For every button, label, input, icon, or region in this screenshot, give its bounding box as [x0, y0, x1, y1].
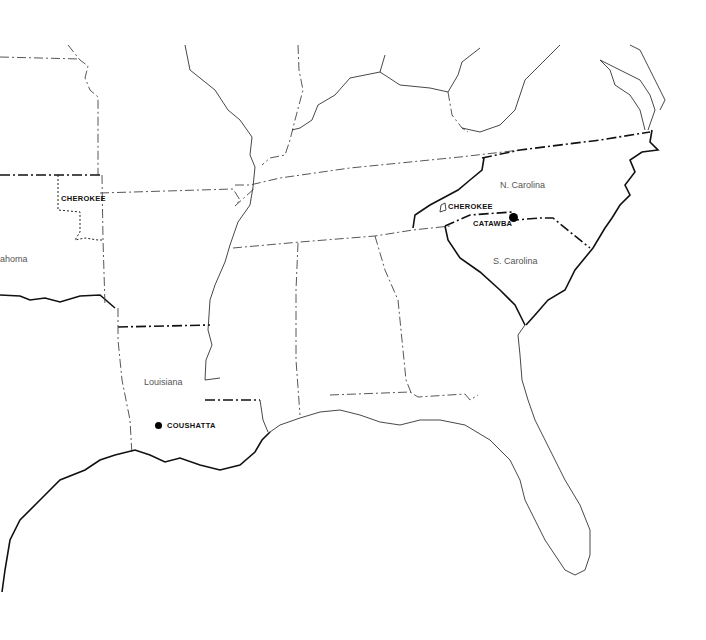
gulf-coast-mississippi-florida	[270, 325, 590, 575]
gulf-coast-texas-louisiana	[2, 432, 270, 592]
tennessee-south-border	[233, 226, 450, 248]
illinois-indiana-border	[262, 45, 303, 165]
label-cherokee-oklahoma: CHEROKEE	[61, 194, 106, 203]
label-cherokee-nc: CHEROKEE	[448, 202, 493, 211]
kentucky-north	[380, 48, 480, 92]
alabama-georgia-border	[375, 236, 412, 395]
kentucky-virginia	[448, 92, 468, 132]
label-louisiana: Louisiana	[144, 377, 183, 387]
pearl-river	[260, 400, 268, 432]
kansas-north-border	[0, 57, 80, 59]
west-virginia	[462, 45, 560, 132]
texas-louisiana-border	[118, 308, 132, 455]
nc-virginia-border	[482, 132, 650, 158]
missouri-arkansas-border	[100, 187, 256, 206]
atlantic-coast-carolinas	[526, 130, 658, 325]
red-river	[0, 295, 115, 308]
mississippi-river	[185, 45, 255, 380]
label-oklahoma: ahoma	[0, 254, 28, 264]
ohio-river	[292, 55, 385, 130]
southeast-us-map	[0, 0, 706, 640]
florida-border	[330, 392, 478, 400]
arkansas-louisiana-border	[118, 325, 210, 327]
cherokee-oklahoma-boundary	[58, 175, 102, 240]
coushatta-marker-dot	[155, 422, 162, 429]
nc-tennessee-border	[413, 158, 484, 228]
sc-georgia-border	[445, 226, 525, 325]
label-north-carolina: N. Carolina	[500, 180, 545, 190]
cherokee-nc-outline	[440, 203, 446, 212]
chesapeake-bay	[600, 60, 655, 130]
kentucky-tennessee-border	[235, 150, 520, 185]
mississippi-alabama-border	[296, 243, 300, 415]
label-catawba: CATAWBA	[473, 219, 512, 228]
label-south-carolina: S. Carolina	[493, 256, 538, 266]
label-coushatta: COUSHATTA	[167, 421, 216, 430]
missouri-river-border	[68, 45, 98, 175]
catawba-marker-dot	[509, 213, 518, 222]
